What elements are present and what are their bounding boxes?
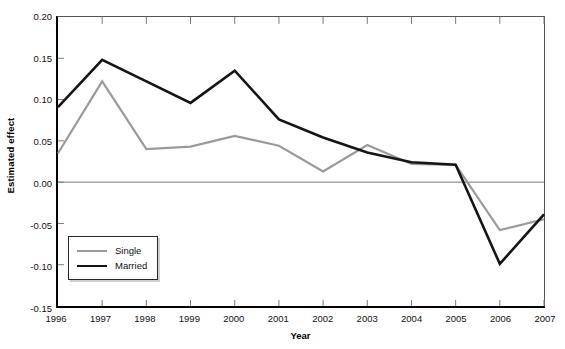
x-axis-tick-label: 2001	[268, 313, 289, 324]
black-line-swatch-icon	[77, 265, 107, 267]
x-axis-title-text: Year	[290, 330, 310, 341]
x-axis-tick-label: 2005	[446, 313, 467, 324]
legend-label-single: Single	[115, 245, 141, 256]
chart-legend: Single Married	[68, 236, 158, 280]
x-axis-tick-label: 1997	[90, 313, 111, 324]
gray-line-swatch-icon	[77, 250, 107, 252]
x-axis-tick-label: 2007	[534, 313, 555, 324]
line-chart-figure: Estimated effect 0.200.150.100.050.00-0.…	[0, 0, 565, 349]
x-axis-title: Year	[56, 330, 545, 341]
x-axis-tick-label: 1999	[179, 313, 200, 324]
x-axis-tick-labels: 1996199719981999200020012002200320042005…	[0, 0, 565, 349]
x-axis-tick-label: 2003	[357, 313, 378, 324]
legend-label-married: Married	[115, 260, 147, 271]
x-axis-tick-label: 2004	[401, 313, 422, 324]
legend-item-married: Married	[77, 258, 147, 273]
x-axis-tick-label: 1998	[134, 313, 155, 324]
x-axis-tick-label: 2000	[223, 313, 244, 324]
x-axis-tick-label: 1996	[45, 313, 66, 324]
x-axis-tick-label: 2006	[490, 313, 511, 324]
legend-item-single: Single	[77, 243, 147, 258]
x-axis-tick-label: 2002	[312, 313, 333, 324]
